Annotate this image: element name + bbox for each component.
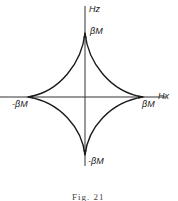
cusp-top-mark [84,31,87,38]
cusp-label-left: -βM [12,100,28,109]
vertical-axis-label: Hz [89,5,100,14]
cusp-label-bottom: -βM [88,157,104,166]
horizontal-axis-label: Hx [158,92,169,101]
cusp-label-top: βM [90,27,103,36]
cusp-bottom-mark [84,150,87,157]
figure-caption: Fig. 21 [72,193,105,201]
cusp-label-right: βM [142,100,155,109]
